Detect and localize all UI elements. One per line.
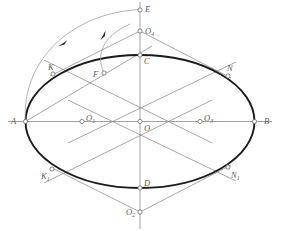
node-C	[138, 53, 142, 57]
node-K1	[50, 167, 54, 171]
node-O2	[138, 210, 142, 214]
label-F: F	[93, 70, 98, 79]
label-O1: O1	[86, 114, 95, 123]
node-N	[226, 74, 230, 78]
node-O	[138, 119, 142, 123]
line-O2-to-K1	[50, 167, 140, 212]
label-K1: K1	[41, 172, 50, 181]
figure-canvas	[0, 0, 281, 231]
line-N1-through-O3-to-O1	[68, 100, 236, 181]
line-K1-through-O1-to-O3	[44, 100, 212, 183]
node-F	[102, 71, 106, 75]
label-O4: O4	[145, 27, 154, 36]
label-E: E	[145, 5, 150, 14]
arrowhead-outer-arc	[58, 41, 67, 47]
arc-A-to-E	[25, 10, 140, 122]
swing-arcs-group	[25, 10, 140, 122]
node-N1	[226, 165, 230, 169]
line-K-through-O1-to-O3	[44, 60, 212, 143]
label-N: N	[227, 64, 233, 73]
node-O4	[138, 29, 142, 33]
label-D: D	[144, 179, 150, 188]
label-C: C	[144, 57, 150, 66]
label-N1: N1	[231, 171, 240, 180]
node-A	[23, 119, 27, 123]
node-O3	[198, 119, 202, 123]
node-B	[252, 119, 256, 123]
label-O: O	[144, 124, 150, 133]
arrowhead-inner-arc	[101, 31, 106, 41]
node-O1	[80, 119, 84, 123]
label-O3: O3	[204, 114, 213, 123]
node-K	[51, 72, 55, 76]
label-A: A	[11, 117, 16, 126]
arc-arrowheads-group	[58, 31, 106, 47]
label-O2: O2	[126, 208, 135, 217]
axes-group	[8, 2, 272, 229]
node-E	[138, 8, 142, 12]
label-K: K	[48, 63, 54, 72]
geometric-figure: A B C D O O1 O3 O4 O2 E F K K1 N N1	[0, 0, 281, 231]
label-B: B	[264, 117, 269, 126]
node-D	[138, 186, 142, 190]
